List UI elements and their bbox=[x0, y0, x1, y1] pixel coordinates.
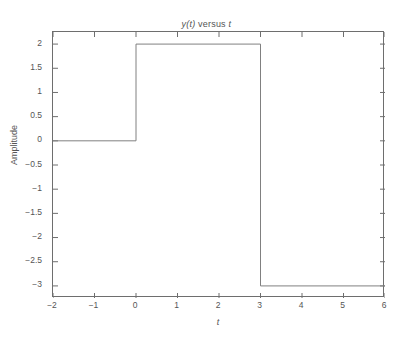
plot-svg bbox=[53, 32, 385, 298]
title-part-connector: versus bbox=[195, 19, 228, 29]
data-series-line bbox=[53, 44, 385, 286]
x-tick-label: 5 bbox=[340, 301, 345, 310]
y-axis-tick-labels: 21.510.50−0.5−1−1.5−2−2.5−3 bbox=[0, 31, 47, 297]
y-tick-label: −0.5 bbox=[25, 160, 47, 169]
x-tick-label: 1 bbox=[174, 301, 179, 310]
data-series-group bbox=[53, 44, 385, 286]
x-tick-label: 6 bbox=[382, 301, 387, 310]
y-tick-label: −3 bbox=[32, 280, 47, 289]
plot-area bbox=[52, 31, 384, 297]
y-tick-label: 0.5 bbox=[30, 111, 47, 120]
y-tick-label: 0 bbox=[37, 135, 47, 144]
x-tick-label: 2 bbox=[216, 301, 221, 310]
y-tick-label: −2.5 bbox=[25, 256, 47, 265]
y-axis-label: Amplitude bbox=[9, 100, 19, 190]
y-tick-label: 2 bbox=[37, 39, 47, 48]
x-tick-label: −1 bbox=[89, 301, 99, 310]
y-tick-label: −2 bbox=[32, 232, 47, 241]
title-part-function: y(t) bbox=[182, 19, 196, 29]
x-axis-tick-labels: −2−10123456 bbox=[52, 301, 384, 315]
x-tick-label: −2 bbox=[47, 301, 57, 310]
y-tick-label: 1 bbox=[37, 87, 47, 96]
y-tick-label: −1.5 bbox=[25, 208, 47, 217]
figure-canvas: y(t) versus t 21.510.50−0.5−1−1.5−2−2.5−… bbox=[0, 0, 402, 342]
x-tick-label: 3 bbox=[257, 301, 262, 310]
x-tick-label: 0 bbox=[133, 301, 138, 310]
y-tick-label: −1 bbox=[32, 184, 47, 193]
x-axis-label: t bbox=[52, 317, 384, 327]
tick-marks bbox=[53, 32, 385, 298]
title-part-variable: t bbox=[229, 19, 232, 29]
x-tick-label: 4 bbox=[299, 301, 304, 310]
y-tick-label: 1.5 bbox=[30, 63, 47, 72]
